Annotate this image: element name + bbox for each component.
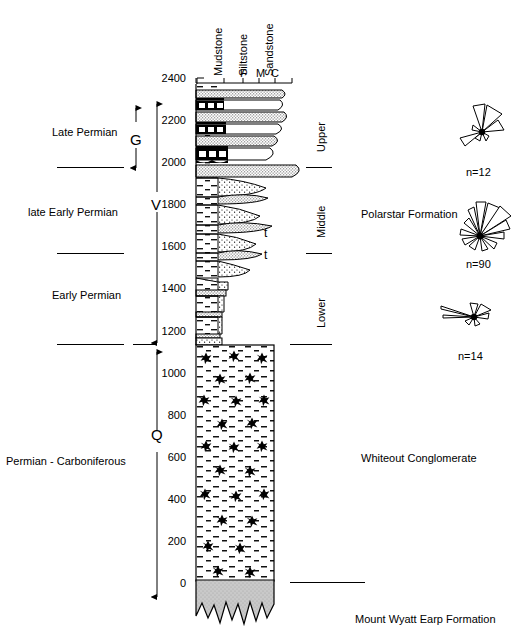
grain-header-mudstone: Mudstone bbox=[212, 28, 224, 76]
basement-unit bbox=[196, 580, 306, 643]
member-divider-2 bbox=[306, 253, 332, 254]
lithology-column bbox=[196, 84, 306, 584]
rose-count-label-2: n=90 bbox=[466, 258, 491, 270]
age-divider-1 bbox=[57, 167, 124, 168]
axis-tick-label: 2400 bbox=[150, 72, 186, 84]
age-label-late-early-permian: late Early Permian bbox=[28, 206, 118, 218]
formation-label-whiteout: Whiteout Conglomerate bbox=[361, 452, 477, 464]
formation-divider-base bbox=[290, 582, 365, 583]
member-divider-1 bbox=[306, 167, 332, 168]
stage-letter-g: G bbox=[130, 131, 142, 148]
member-label-lower: Lower bbox=[315, 298, 327, 328]
rose-diagram-2 bbox=[448, 192, 518, 254]
age-divider-2 bbox=[57, 253, 124, 254]
member-label-upper: Upper bbox=[315, 122, 327, 152]
formation-label-mount-wyatt-earp: Mount Wyatt Earp Formation bbox=[355, 613, 496, 625]
member-divider-3 bbox=[290, 344, 332, 345]
stage-letter-q: Q bbox=[151, 426, 163, 443]
formation-label-polarstar: Polarstar Formation bbox=[361, 208, 458, 220]
age-divider-3 bbox=[57, 344, 124, 345]
age-label-permian-carboniferous: Permian - Carboniferous bbox=[6, 455, 126, 467]
coal-seams bbox=[196, 98, 228, 163]
member-label-middle: Middle bbox=[315, 206, 327, 238]
bed-annotation-t-2: t bbox=[264, 249, 267, 262]
rose-diagram-1 bbox=[450, 98, 514, 158]
age-label-late-permian: Late Permian bbox=[52, 126, 117, 138]
rose-count-label-3: n=14 bbox=[458, 350, 483, 362]
stage-range-arrows bbox=[126, 100, 166, 605]
stage-letter-v: V bbox=[151, 196, 161, 213]
rose-count-label-1: n=12 bbox=[466, 166, 491, 178]
rose-diagram-3 bbox=[440, 290, 516, 346]
age-label-early-permian: Early Permian bbox=[52, 289, 121, 301]
bed-annotation-t-1: t bbox=[264, 227, 267, 240]
